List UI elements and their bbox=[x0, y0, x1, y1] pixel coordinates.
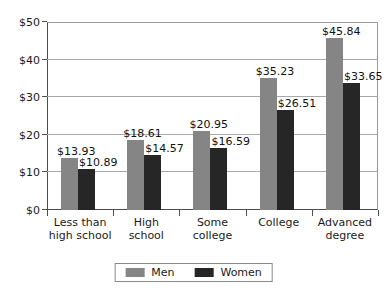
bar-value-label: $26.51 bbox=[278, 98, 317, 109]
bar-group: $45.84$33.65 bbox=[312, 22, 378, 210]
bar-group: $18.61$14.57 bbox=[113, 22, 179, 210]
bar-value-label: $10.89 bbox=[79, 157, 118, 168]
bar: $20.95 bbox=[193, 131, 210, 210]
bar-group: $13.93$10.89 bbox=[47, 22, 113, 210]
legend-item[interactable]: Women bbox=[194, 267, 261, 278]
legend-label: Women bbox=[220, 267, 261, 278]
bar: $10.89 bbox=[78, 169, 95, 210]
category-label-line: school bbox=[113, 229, 179, 242]
chart-legend: MenWomen bbox=[114, 263, 273, 282]
y-axis-tick-label: $10 bbox=[19, 167, 40, 178]
category-label-line: college bbox=[179, 229, 245, 242]
bar: $35.23 bbox=[260, 78, 277, 210]
legend-swatch-icon bbox=[125, 268, 144, 277]
bar: $16.59 bbox=[210, 148, 227, 210]
category-label-line: high school bbox=[47, 229, 113, 242]
y-axis-tick-label: $30 bbox=[19, 92, 40, 103]
bar-value-label: $16.59 bbox=[211, 136, 250, 147]
category-label-line: degree bbox=[312, 229, 378, 242]
category-label-line: College bbox=[246, 216, 312, 229]
legend-item[interactable]: Men bbox=[125, 267, 174, 278]
plot-wrapper: $0$10$20$30$40$50 $13.93$10.89$18.61$14.… bbox=[47, 22, 378, 210]
bar: $45.84 bbox=[326, 38, 343, 210]
x-axis-category-label: College bbox=[246, 216, 312, 229]
bar: $33.65 bbox=[343, 83, 360, 210]
x-axis-category-labels: Less thanhigh schoolHighschoolSomecolleg… bbox=[47, 216, 378, 252]
bar: $13.93 bbox=[61, 158, 78, 210]
y-axis-tick-label: $20 bbox=[19, 129, 40, 140]
legend-label: Men bbox=[151, 267, 174, 278]
x-axis-tick bbox=[378, 210, 379, 216]
x-axis-category-label: Less thanhigh school bbox=[47, 216, 113, 242]
y-axis-tick-label: $50 bbox=[19, 17, 40, 28]
bar-chart: $0$10$20$30$40$50 $13.93$10.89$18.61$14.… bbox=[0, 0, 387, 295]
bar: $26.51 bbox=[277, 110, 294, 210]
bar-group: $20.95$16.59 bbox=[179, 22, 245, 210]
y-axis-tick-label: $40 bbox=[19, 54, 40, 65]
category-label-line: High bbox=[113, 216, 179, 229]
bar-value-label: $18.61 bbox=[123, 128, 162, 139]
category-label-line: Some bbox=[179, 216, 245, 229]
bar-value-label: $20.95 bbox=[189, 119, 228, 130]
x-axis-category-label: Highschool bbox=[113, 216, 179, 242]
bar-value-label: $33.65 bbox=[344, 71, 383, 82]
x-axis-category-label: Advanceddegree bbox=[312, 216, 378, 242]
bar-group: $35.23$26.51 bbox=[246, 22, 312, 210]
bar-value-label: $14.57 bbox=[145, 143, 184, 154]
bar-value-label: $13.93 bbox=[57, 146, 96, 157]
category-label-line: Advanced bbox=[312, 216, 378, 229]
bar-value-label: $35.23 bbox=[256, 66, 295, 77]
bar-value-label: $45.84 bbox=[322, 26, 361, 37]
bar: $18.61 bbox=[127, 140, 144, 210]
bar: $14.57 bbox=[144, 155, 161, 210]
legend-swatch-icon bbox=[194, 268, 213, 277]
x-axis-category-label: Somecollege bbox=[179, 216, 245, 242]
category-label-line: Less than bbox=[47, 216, 113, 229]
y-axis-tick-label: $0 bbox=[26, 205, 40, 216]
